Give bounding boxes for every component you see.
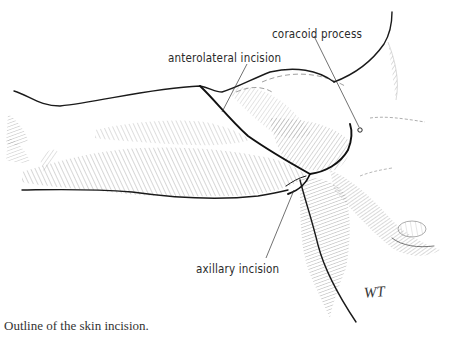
artist-signature: WT [363, 283, 385, 301]
label-coracoid-process: coracoid process [272, 27, 362, 41]
label-axillary-incision: axillary incision [196, 262, 279, 276]
arm-shading [6, 114, 306, 196]
anatomical-illustration: coracoid process anterolateral incision … [0, 0, 449, 338]
label-anterolateral-incision: anterolateral incision [168, 51, 281, 65]
neck-contour [334, 12, 392, 82]
axilla-chest-shading [300, 42, 440, 318]
nipple-areola [398, 221, 426, 237]
leader-axillary [266, 190, 294, 258]
figure-caption: Outline of the skin incision. [4, 318, 149, 334]
leader-coracoid [314, 36, 359, 127]
coracoid-marker [358, 128, 362, 132]
